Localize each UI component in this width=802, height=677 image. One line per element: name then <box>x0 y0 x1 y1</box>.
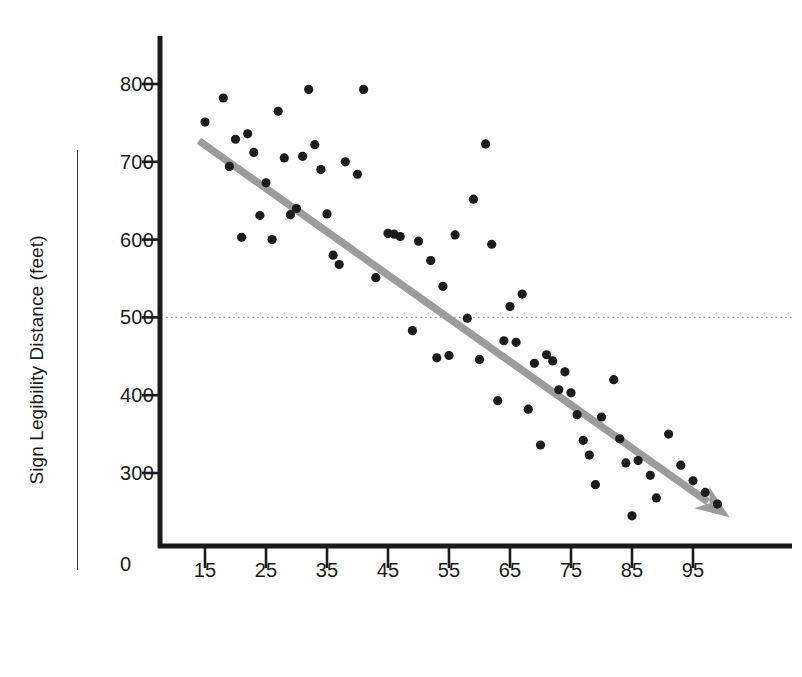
data-point <box>200 118 209 127</box>
data-point <box>536 440 545 449</box>
data-point <box>249 148 258 157</box>
data-point <box>621 458 630 467</box>
data-point <box>518 289 527 298</box>
data-point <box>627 511 636 520</box>
data-point <box>359 85 368 94</box>
trend-line-shaft <box>199 141 708 502</box>
data-point <box>274 107 283 116</box>
data-point <box>475 355 484 364</box>
data-point <box>292 204 301 213</box>
data-point <box>335 260 344 269</box>
data-point <box>261 178 270 187</box>
data-point <box>676 461 685 470</box>
data-point <box>310 140 319 149</box>
data-point <box>634 456 643 465</box>
data-point <box>481 139 490 148</box>
data-point <box>231 135 240 144</box>
data-point <box>597 412 606 421</box>
data-point <box>414 237 423 246</box>
data-point <box>487 240 496 249</box>
data-point <box>255 211 264 220</box>
data-point <box>298 152 307 161</box>
data-point <box>371 273 380 282</box>
data-point <box>219 93 228 102</box>
data-point <box>701 488 710 497</box>
data-point <box>438 282 447 291</box>
data-point <box>713 500 722 509</box>
data-point <box>280 153 289 162</box>
data-point <box>560 367 569 376</box>
data-point <box>432 353 441 362</box>
data-point <box>573 410 582 419</box>
data-point <box>585 451 594 460</box>
data-point <box>511 338 520 347</box>
x-axis-ticks <box>205 548 693 568</box>
data-point <box>243 129 252 138</box>
data-point <box>542 350 551 359</box>
data-point <box>304 85 313 94</box>
data-point <box>237 233 246 242</box>
data-point <box>530 359 539 368</box>
scatter-plot-figure: Sign Legibility Distance (feet) 30040050… <box>0 0 802 677</box>
data-point <box>444 351 453 360</box>
data-point <box>652 493 661 502</box>
plot-canvas <box>0 0 802 677</box>
data-point <box>341 157 350 166</box>
data-point <box>591 480 600 489</box>
data-point <box>451 230 460 239</box>
data-point <box>493 396 502 405</box>
data-point <box>664 430 673 439</box>
data-point <box>469 195 478 204</box>
data-point <box>499 336 508 345</box>
data-point <box>396 232 405 241</box>
data-point <box>268 235 277 244</box>
data-point <box>554 385 563 394</box>
data-point <box>353 170 362 179</box>
data-point <box>408 326 417 335</box>
data-point <box>566 388 575 397</box>
data-point <box>579 436 588 445</box>
data-point <box>322 209 331 218</box>
data-point <box>316 165 325 174</box>
data-point <box>505 302 514 311</box>
trend-line-group <box>199 141 730 518</box>
data-point <box>646 471 655 480</box>
data-point <box>615 434 624 443</box>
data-point <box>426 256 435 265</box>
data-point <box>225 162 234 171</box>
data-point <box>383 229 392 238</box>
data-point <box>463 314 472 323</box>
data-point <box>688 476 697 485</box>
axes-group <box>158 36 792 548</box>
data-point <box>524 405 533 414</box>
data-point <box>609 375 618 384</box>
data-point <box>329 251 338 260</box>
